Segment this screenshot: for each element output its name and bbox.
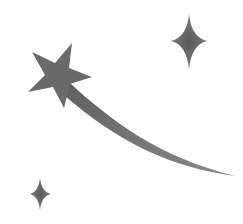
shooting-star-illustration — [0, 0, 243, 224]
star-tail-icon — [64, 83, 236, 176]
sparkle-large-icon — [171, 14, 207, 70]
illustration-svg — [0, 0, 243, 224]
sparkle-small-icon — [30, 178, 51, 210]
